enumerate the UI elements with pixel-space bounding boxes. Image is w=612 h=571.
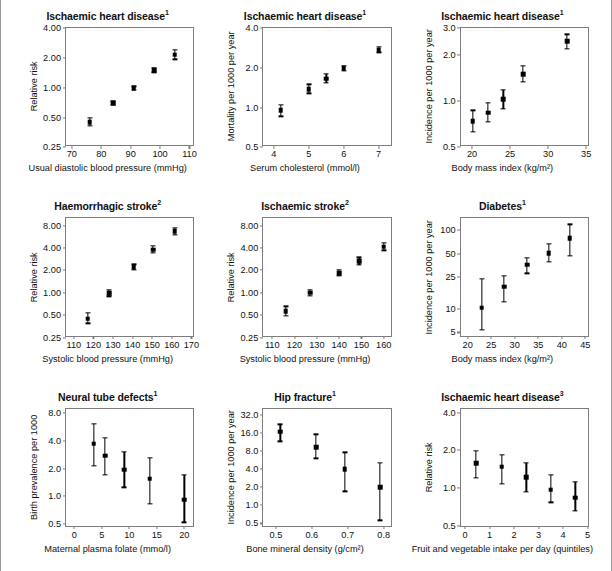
error-bar-cap xyxy=(278,104,283,105)
error-bar-cap xyxy=(499,483,504,484)
error-bar-cap xyxy=(87,125,92,126)
y-tick-label: 4.00 xyxy=(240,243,263,253)
y-axis-label: Mortality per 1000 per year xyxy=(226,27,236,146)
x-tick-label: 0.8 xyxy=(377,526,390,540)
error-bar-cap xyxy=(548,474,553,475)
x-axis-label: Serum cholesterol (mmol/l) xyxy=(206,163,403,173)
x-tick-label: 40 xyxy=(557,336,567,350)
x-axis-label: Bone mineral density (g/cm²) xyxy=(206,544,403,554)
x-tick-label: 120 xyxy=(287,336,302,350)
data-point-marker xyxy=(521,72,526,77)
error-bar-cap xyxy=(501,301,506,302)
y-axis-label: Birth prevalence per 1000 xyxy=(29,408,39,527)
x-tick-label: 2 xyxy=(511,526,516,540)
y-tick-label: 8.00 xyxy=(240,221,263,231)
chart-panel-neural-tube-defects: Neural tube defects10.51.02.04.08.005101… xyxy=(9,381,206,571)
plot-area: 0.51.02.03.020253035 xyxy=(460,27,589,146)
y-tick-label: 8.0 xyxy=(48,408,66,418)
panel-title: Neural tube defects1 xyxy=(9,390,206,403)
x-tick-label: 120 xyxy=(86,336,101,350)
chart-panel-haemorrhagic-stroke: Haemorrhagic stroke20.250.501.002.004.00… xyxy=(9,190,206,380)
data-point-marker xyxy=(341,66,346,71)
y-tick-label: 2.0 xyxy=(246,63,264,73)
data-point-marker xyxy=(378,485,383,490)
panel-title-footnote: 3 xyxy=(560,390,564,397)
y-tick-label: 4.0 xyxy=(48,436,66,446)
x-axis-label: Systolic blood pressure (mmHg) xyxy=(9,354,206,364)
y-tick-label: 4.00 xyxy=(43,23,66,33)
x-tick-label: 150 xyxy=(145,336,160,350)
data-point-marker xyxy=(471,119,476,124)
y-tick-label: 2.00 xyxy=(43,53,66,63)
error-bar-cap xyxy=(91,423,96,424)
data-point-marker xyxy=(324,77,329,82)
y-tick-label: 1.00 xyxy=(240,288,263,298)
data-point-marker xyxy=(567,236,572,241)
y-axis-label: Incidence per 1000 per year xyxy=(424,217,434,336)
error-bar-cap xyxy=(567,255,572,256)
y-tick-label: 1.00 xyxy=(43,288,66,298)
data-point-marker xyxy=(308,291,313,296)
error-bar-cap xyxy=(122,451,127,452)
y-tick-label: 2.00 xyxy=(240,265,263,275)
x-tick-label: 45 xyxy=(580,336,590,350)
error-bar-cap xyxy=(378,462,383,463)
data-point-marker xyxy=(474,461,479,466)
error-bar xyxy=(344,452,345,491)
panel-title: Ischaemic heart disease1 xyxy=(9,9,206,22)
y-axis-label: Incidence per 1000 per year xyxy=(226,408,236,527)
x-tick-label: 130 xyxy=(105,336,120,350)
error-bar-cap xyxy=(565,48,570,49)
error-bar xyxy=(379,463,380,520)
x-tick-label: 15 xyxy=(152,526,162,540)
data-point-marker xyxy=(357,259,362,264)
data-point-marker xyxy=(91,441,96,446)
error-bar-cap xyxy=(337,275,342,276)
y-tick-label: 0.50 xyxy=(43,310,66,320)
panel-title-footnote: 1 xyxy=(332,390,336,397)
data-point-marker xyxy=(306,87,311,92)
y-axis-label: Relative risk xyxy=(29,217,39,336)
chart-panel-ihd-dbp: Ischaemic heart disease10.250.501.002.00… xyxy=(9,0,206,190)
x-tick-label: 90 xyxy=(126,145,136,159)
panel-title-footnote: 2 xyxy=(345,199,349,206)
x-tick-label: 30 xyxy=(543,145,553,159)
error-bar-cap xyxy=(501,89,506,90)
error-bar-cap xyxy=(573,481,578,482)
y-tick-label: 50 xyxy=(445,249,460,259)
y-tick-label: 0.25 xyxy=(43,333,66,343)
data-point-marker xyxy=(546,251,551,256)
error-bar-cap xyxy=(486,103,491,104)
x-tick-label: 100 xyxy=(152,145,167,159)
plot-area: 0.51.02.04.0012345 xyxy=(460,408,589,527)
x-tick-label: 25 xyxy=(505,145,515,159)
y-axis-label: Relative risk xyxy=(226,217,236,336)
x-tick-label: 150 xyxy=(354,336,369,350)
data-point-marker xyxy=(172,229,177,234)
error-bar-cap xyxy=(182,474,187,475)
chart-panel-hip-fracture: Hip fracture10.51.02.04.08.016.032.00.50… xyxy=(206,381,403,571)
y-tick-label: 2.0 xyxy=(48,464,66,474)
error-bar-cap xyxy=(107,296,112,297)
panel-title: Ischaemic heart disease3 xyxy=(404,390,601,403)
x-tick-label: 5 xyxy=(585,526,590,540)
y-tick-label: 0.5 xyxy=(48,519,66,529)
error-bar-cap xyxy=(501,108,506,109)
error-bar-cap xyxy=(278,441,283,442)
error-bar-cap xyxy=(103,437,108,438)
error-bar-cap xyxy=(314,458,319,459)
y-tick-label: 4.0 xyxy=(246,23,264,33)
chart-panel-ihd-bmi: Ischaemic heart disease10.51.02.03.02025… xyxy=(404,0,601,190)
y-tick-label: 1.00 xyxy=(43,83,66,93)
x-tick-label: 20 xyxy=(463,336,473,350)
error-bar-cap xyxy=(524,491,529,492)
error-bar-cap xyxy=(501,275,506,276)
y-tick-label: 3.0 xyxy=(443,23,461,33)
x-tick-label: 160 xyxy=(376,336,391,350)
data-point-marker xyxy=(152,68,157,73)
y-tick-label: 5 xyxy=(451,327,461,337)
x-tick-label: 170 xyxy=(184,336,199,350)
x-tick-label: 1 xyxy=(487,526,492,540)
x-tick-label: 25 xyxy=(486,336,496,350)
data-point-marker xyxy=(131,265,136,270)
